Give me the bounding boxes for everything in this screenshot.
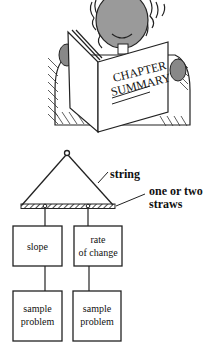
card-rate-line2: of change: [78, 247, 118, 258]
card-rate-line1: rate: [91, 234, 107, 245]
straws: [21, 204, 115, 209]
card-sample-problem-2-line1: sample: [83, 303, 112, 314]
card-sample-problem-1-line2: problem: [21, 316, 55, 327]
chapter-summary-illustration: CHAPTER SUMMARY: [0, 0, 216, 140]
card-slope-text: slope: [27, 241, 49, 252]
string: [22, 151, 113, 206]
label-straws-line2: straws: [149, 197, 183, 211]
card-sample-problem-1-line1: sample: [23, 303, 52, 314]
label-straws-line1: one or two: [149, 184, 203, 198]
card-sample-problem-2-line2: problem: [80, 316, 114, 327]
straws-leader: [116, 194, 145, 206]
label-string: string: [110, 167, 140, 181]
mobile-diagram: string one or two straws slope sample pr…: [0, 140, 216, 358]
card-rate-of-change: [74, 226, 122, 266]
string-leader: [98, 172, 108, 183]
face: [96, 0, 148, 48]
